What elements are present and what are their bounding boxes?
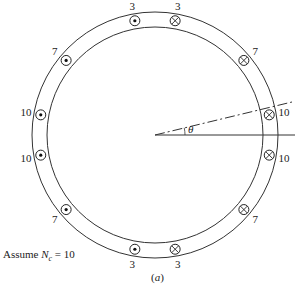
- assumption-note: Assume Nc = 10: [3, 248, 75, 263]
- stator-winding-diagram: θ 1010737337101073: [0, 0, 295, 290]
- theta-label: θ: [188, 123, 194, 135]
- conductor-turns-label: 7: [52, 213, 58, 225]
- figure-caption: (a): [151, 271, 164, 283]
- note-suffix: = 10: [52, 248, 75, 260]
- conductor-turns-label: 10: [20, 106, 32, 118]
- conductor-turns-label: 7: [253, 45, 259, 57]
- conductor-turns-label: 10: [279, 152, 291, 164]
- note-prefix: Assume: [3, 248, 41, 260]
- theta-arc: [184, 128, 185, 135]
- conductor-turns-label: 3: [175, 0, 181, 12]
- note-var: N: [41, 248, 48, 260]
- conductor-turns-label: 3: [130, 258, 136, 270]
- conductor-turns-label: 10: [20, 152, 32, 164]
- conductor-turns-label: 10: [279, 106, 291, 118]
- conductor-turns-label: 7: [52, 45, 58, 57]
- conductor-turns-label: 7: [253, 213, 259, 225]
- conductor-turns-label: 3: [175, 258, 181, 270]
- conductor-turns-label: 3: [130, 0, 136, 12]
